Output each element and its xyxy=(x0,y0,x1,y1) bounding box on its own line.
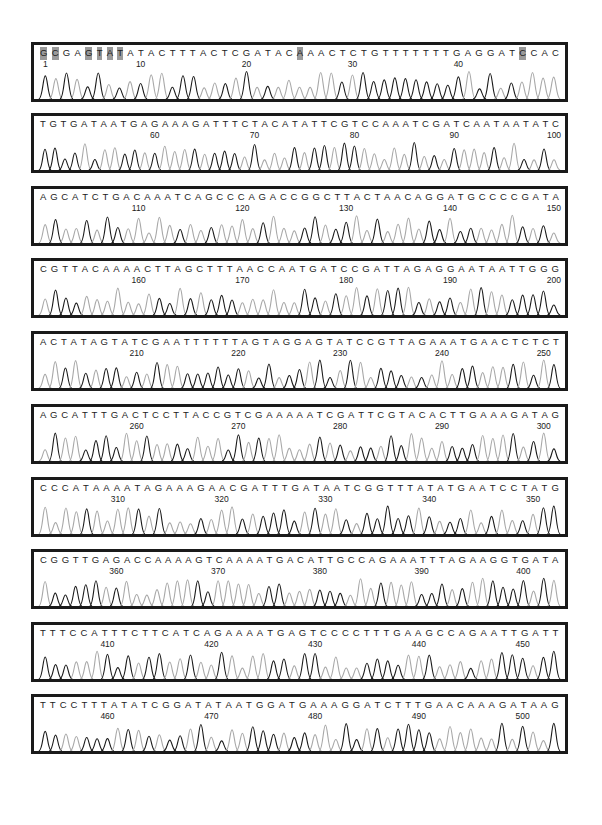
trace-panel-1: GCGAGTATATACTTTACTCGATACAAACTCTGTTTTTTTG… xyxy=(31,42,568,102)
chromatogram-trace xyxy=(34,281,565,315)
trace-panel-3: AGCATCTGACAAATCAGCCCAGACCGGCTTACTAACAGGA… xyxy=(31,186,568,246)
chromatogram-trace xyxy=(34,500,565,534)
chromatogram-trace xyxy=(34,209,565,243)
chromatogram-trace xyxy=(34,136,565,170)
trace-panel-2: TGTGATAATGAGAAAGATTTCTACATATTCGTCCAAATCG… xyxy=(31,113,568,173)
chromatogram-trace xyxy=(34,427,565,461)
chromatogram-trace xyxy=(34,572,565,606)
chromatogram-trace xyxy=(34,645,565,679)
trace-panel-10: TTCCTTTATATCGGATATAATGGATGAAAGGATCTTTGAA… xyxy=(31,694,568,754)
trace-panel-7: CCCATAAAATAGAAAGAACGATTTGATAATCGGTTTATAT… xyxy=(31,477,568,537)
chromatogram-trace xyxy=(34,354,565,388)
trace-panel-9: TTTCCATTTCTTCATCAGAAAATGAGTCCCCTTTGAAGCC… xyxy=(31,622,568,682)
chromatogram-trace xyxy=(34,65,565,99)
chromatogram-trace xyxy=(34,717,565,751)
trace-panel-8: CGGTTGAGACCAAAAGTCAAAATGACATTGCCAGAAATTT… xyxy=(31,549,568,609)
trace-panel-5: ACTATAGTATCGAATTTTTTAGTAGGAGTATCCGTTAGAA… xyxy=(31,331,568,391)
trace-panel-6: AGCATTTGACTCCTTACCGTCGAAAAATCGATTCGTACAC… xyxy=(31,404,568,464)
trace-panel-4: CGTTACAAAACTTAGCTTTAACCAATGATCCGATTAGAGG… xyxy=(31,258,568,318)
